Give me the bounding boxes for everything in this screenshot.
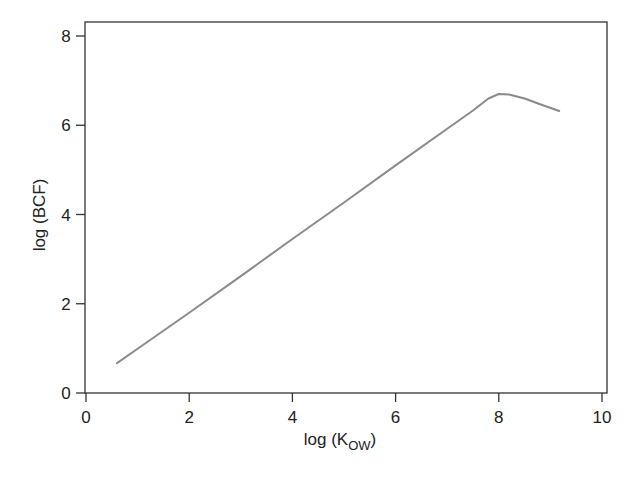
x-axis-ticks: 0246810 xyxy=(81,393,611,427)
chart: 02468 0246810 log (BCF) log (KOW) xyxy=(0,0,633,483)
x-axis-label-subscript: OW xyxy=(348,438,371,453)
x-tick-label: 10 xyxy=(593,408,612,427)
x-axis-label-main: log (K xyxy=(304,430,349,449)
data-line xyxy=(117,94,559,363)
x-tick-label: 8 xyxy=(494,408,503,427)
x-axis-label-close: ) xyxy=(371,430,377,449)
y-axis-label: log (BCF) xyxy=(30,179,49,252)
plot-frame xyxy=(85,22,607,393)
x-tick-label: 0 xyxy=(81,408,90,427)
y-tick-label: 2 xyxy=(61,295,70,314)
y-tick-label: 6 xyxy=(61,116,70,135)
y-tick-label: 0 xyxy=(61,384,70,403)
x-axis-label: log (KOW) xyxy=(304,430,376,453)
y-tick-label: 4 xyxy=(61,206,70,225)
x-tick-label: 4 xyxy=(288,408,297,427)
y-tick-label: 8 xyxy=(61,27,70,46)
x-tick-label: 2 xyxy=(184,408,193,427)
x-tick-label: 6 xyxy=(391,408,400,427)
y-axis-ticks: 02468 xyxy=(61,27,85,403)
